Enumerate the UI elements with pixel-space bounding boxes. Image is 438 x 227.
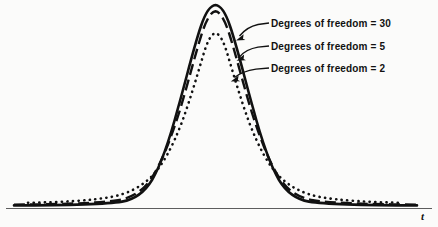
df30-curve — [14, 5, 417, 205]
t-distribution-figure: Degrees of freedom = 30 Degrees of freed… — [0, 0, 438, 227]
df2-curve — [28, 33, 403, 203]
leader-df5 — [237, 46, 270, 61]
annotation-label-df2: Degrees of freedom = 2 — [271, 64, 385, 74]
x-axis-label: t — [421, 211, 424, 222]
annotation-label-df30: Degrees of freedom = 30 — [271, 19, 391, 29]
leader-df2 — [231, 68, 269, 82]
chart-canvas — [0, 0, 438, 227]
annotation-label-df5: Degrees of freedom = 5 — [271, 42, 385, 52]
leader-df30 — [236, 23, 269, 41]
